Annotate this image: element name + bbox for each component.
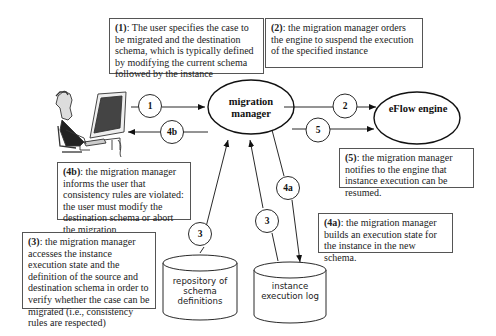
repository-label-line1: repository of bbox=[165, 276, 235, 286]
note-step-5: (5): the migration manager notifies to t… bbox=[339, 148, 474, 188]
edge-label-4a: 4a bbox=[276, 182, 300, 194]
note-step-1-text: : The user specifies the case to be migr… bbox=[115, 22, 254, 79]
execution-log-label-line1: instance bbox=[255, 281, 325, 291]
repository-label: repository of schema definitions bbox=[165, 276, 235, 306]
edge-label-1: 1 bbox=[138, 100, 162, 112]
migration-manager-label-line1: migration bbox=[214, 96, 288, 108]
execution-log-label-line2: execution log bbox=[255, 291, 325, 301]
note-step-4a: (4a): the migration manager builds an ex… bbox=[318, 213, 453, 253]
note-step-4b-tag: (4b) bbox=[63, 166, 80, 177]
note-step-2: (2): the migration manager orders the en… bbox=[265, 18, 423, 68]
note-step-1: (1): The user specifies the case to be m… bbox=[109, 18, 264, 74]
edge-label-2: 2 bbox=[333, 100, 357, 112]
note-step-2-tag: (2) bbox=[271, 22, 283, 33]
edge-label-3-log: 3 bbox=[255, 215, 279, 227]
edge-label-5: 5 bbox=[306, 124, 330, 136]
note-step-4a-tag: (4a) bbox=[324, 217, 341, 228]
note-step-2-text: : the migration manager orders the engin… bbox=[271, 22, 413, 56]
migration-diagram: migration manager eFlow engine 1 4b 2 5 … bbox=[0, 0, 496, 336]
repository-label-line2: schema bbox=[165, 286, 235, 296]
migration-manager-label: migration manager bbox=[214, 96, 288, 120]
edge-label-4b: 4b bbox=[160, 126, 184, 138]
eflow-engine-label: eFlow engine bbox=[378, 103, 458, 115]
eflow-engine-node bbox=[374, 92, 460, 144]
note-step-3: (3): the migration manager accesses the … bbox=[22, 232, 156, 309]
note-step-1-tag: (1) bbox=[115, 22, 127, 33]
repository-label-line3: definitions bbox=[165, 296, 235, 306]
note-step-3-text: : the migration manager accesses the ins… bbox=[28, 236, 149, 328]
edge-label-3-repository: 3 bbox=[188, 228, 212, 240]
execution-log-label: instance execution log bbox=[255, 281, 325, 301]
note-step-5-tag: (5) bbox=[345, 152, 357, 163]
note-step-4b: (4b): the migration manager informs the … bbox=[57, 162, 191, 220]
note-step-3-tag: (3) bbox=[28, 236, 40, 247]
migration-manager-label-line2: manager bbox=[214, 108, 288, 120]
user-at-computer-icon bbox=[56, 91, 126, 157]
